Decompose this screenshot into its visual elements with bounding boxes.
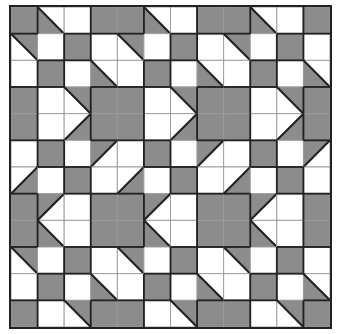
quilt-cell: [38, 247, 65, 274]
quilt-cell: [64, 114, 91, 141]
quilt-cell: [38, 220, 65, 247]
quilt-cell: [171, 274, 198, 301]
quilt-cell: [144, 220, 171, 247]
quilt-cell: [250, 60, 277, 87]
quilt-cell: [64, 274, 91, 301]
quilt-cell: [64, 300, 91, 327]
quilt-cell: [117, 114, 144, 141]
quilt-cell: [117, 7, 144, 34]
quilt-cell: [277, 247, 304, 274]
quilt-cell: [144, 167, 171, 194]
quilt-cell: [197, 274, 224, 301]
quilt-cell: [117, 300, 144, 327]
quilt-cell: [38, 87, 65, 114]
quilt-cell: [38, 140, 65, 167]
quilt-cell: [144, 274, 171, 301]
quilt-cell: [144, 194, 171, 221]
quilt-cell: [91, 34, 118, 61]
quilt-pattern-grid: [9, 5, 332, 329]
quilt-cell: [11, 60, 38, 87]
quilt-cell: [117, 274, 144, 301]
quilt-cell: [250, 274, 277, 301]
quilt-cell: [250, 34, 277, 61]
quilt-cell: [64, 34, 91, 61]
quilt-cell: [91, 114, 118, 141]
quilt-cell: [171, 300, 198, 327]
quilt-cell: [171, 220, 198, 247]
quilt-cell: [91, 140, 118, 167]
quilt-cell: [11, 220, 38, 247]
quilt-cell: [197, 247, 224, 274]
quilt-cell: [197, 167, 224, 194]
quilt-cell: [224, 140, 251, 167]
quilt-cell: [38, 114, 65, 141]
quilt-cell: [303, 7, 330, 34]
quilt-cell: [224, 114, 251, 141]
quilt-cell: [277, 220, 304, 247]
quilt-cell: [277, 87, 304, 114]
quilt-cell: [224, 87, 251, 114]
quilt-cell: [303, 87, 330, 114]
quilt-cell: [171, 34, 198, 61]
quilt-cell: [144, 300, 171, 327]
quilt-cell: [224, 274, 251, 301]
quilt-cell: [303, 167, 330, 194]
quilt-cell: [117, 34, 144, 61]
quilt-cell: [277, 300, 304, 327]
quilt-cell: [11, 194, 38, 221]
quilt-cell: [171, 194, 198, 221]
quilt-cell: [11, 300, 38, 327]
quilt-cell: [197, 140, 224, 167]
quilt-cell: [11, 140, 38, 167]
quilt-svg: [11, 7, 330, 327]
quilt-cell: [250, 7, 277, 34]
quilt-cell: [64, 140, 91, 167]
quilt-cell: [144, 247, 171, 274]
quilt-cell: [171, 114, 198, 141]
quilt-cell: [303, 300, 330, 327]
quilt-cell: [11, 114, 38, 141]
quilt-cell: [144, 114, 171, 141]
quilt-cell: [64, 220, 91, 247]
quilt-cell: [277, 60, 304, 87]
quilt-cell: [64, 167, 91, 194]
quilt-cell: [38, 167, 65, 194]
quilt-cell: [171, 7, 198, 34]
quilt-cell: [250, 194, 277, 221]
quilt-cell: [250, 247, 277, 274]
quilt-cell: [303, 114, 330, 141]
quilt-cell: [224, 60, 251, 87]
quilt-cell: [38, 7, 65, 34]
quilt-cell: [250, 167, 277, 194]
quilt-cell: [91, 247, 118, 274]
quilt-cell: [224, 194, 251, 221]
quilt-cell: [197, 114, 224, 141]
quilt-cell: [224, 300, 251, 327]
quilt-cell: [250, 220, 277, 247]
quilt-cell: [38, 300, 65, 327]
quilt-cell: [91, 167, 118, 194]
quilt-cell: [117, 140, 144, 167]
quilt-cell: [91, 87, 118, 114]
quilt-cell: [250, 114, 277, 141]
quilt-cell: [117, 220, 144, 247]
quilt-cell: [224, 7, 251, 34]
quilt-cell: [303, 247, 330, 274]
quilt-cell: [64, 194, 91, 221]
quilt-cell: [117, 194, 144, 221]
quilt-cell: [64, 7, 91, 34]
quilt-cell: [11, 274, 38, 301]
quilt-cell: [197, 60, 224, 87]
quilt-cell: [250, 87, 277, 114]
quilt-cell: [303, 194, 330, 221]
quilt-cell: [91, 194, 118, 221]
quilt-cell: [303, 60, 330, 87]
quilt-cell: [277, 34, 304, 61]
quilt-cell: [38, 60, 65, 87]
quilt-cell: [197, 7, 224, 34]
quilt-cell: [277, 274, 304, 301]
quilt-cell: [144, 34, 171, 61]
quilt-cell: [117, 247, 144, 274]
quilt-cell: [224, 220, 251, 247]
quilt-cell: [250, 140, 277, 167]
